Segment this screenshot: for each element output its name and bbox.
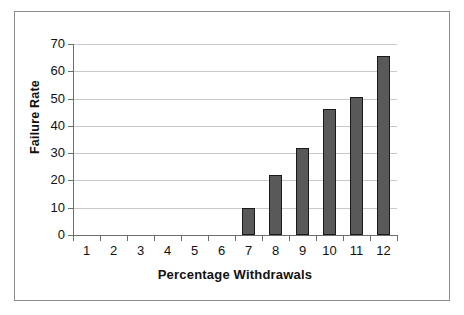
bar-chart: 010203040506070 123456789101112 Failure … [15, 12, 451, 302]
bar-series [15, 12, 451, 302]
figure-frame: 010203040506070 123456789101112 Failure … [14, 11, 450, 301]
bar-12 [377, 56, 390, 235]
bar-11 [350, 97, 363, 235]
bar-10 [323, 109, 336, 235]
y-axis-title: Failure Rate [28, 67, 42, 167]
bar-7 [242, 208, 255, 235]
x-axis-title: Percentage Withdrawals [73, 267, 397, 282]
bar-8 [269, 175, 282, 235]
bar-9 [296, 148, 309, 235]
